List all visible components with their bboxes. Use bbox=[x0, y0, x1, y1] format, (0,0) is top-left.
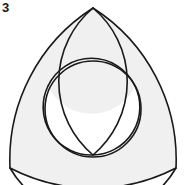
geometric-figure-svg: Reuleaux triangle with inscribed circle … bbox=[0, 0, 185, 185]
figure-container: 3 Reuleaux triangle with inscribed circl… bbox=[0, 0, 185, 185]
shaded-regions-group bbox=[10, 8, 176, 185]
